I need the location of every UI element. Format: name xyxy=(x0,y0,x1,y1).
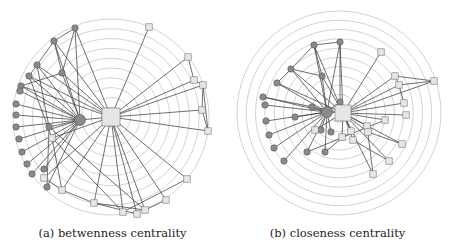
circle-node xyxy=(304,149,310,155)
square-node xyxy=(386,158,392,164)
square-node xyxy=(59,187,65,193)
square-node xyxy=(49,135,55,141)
circle-node xyxy=(13,112,19,118)
circle-node xyxy=(322,149,328,155)
square-node xyxy=(350,137,356,143)
circle-node xyxy=(281,158,287,164)
square-node xyxy=(378,49,384,55)
circle-node xyxy=(41,166,47,172)
square-node xyxy=(399,141,405,147)
caption-closeness: (b) closeness centrality xyxy=(225,226,450,240)
square-node xyxy=(41,175,47,181)
caption-betweenness: (a) betwenness centrality xyxy=(0,226,225,240)
circle-node xyxy=(288,66,294,72)
square-node xyxy=(339,134,345,140)
hub-circle-node xyxy=(322,107,333,118)
hub-circle-node xyxy=(75,115,86,126)
square-node xyxy=(392,73,398,79)
circle-node xyxy=(26,73,32,79)
square-node xyxy=(396,82,402,88)
circle-node xyxy=(271,145,277,151)
circle-node xyxy=(311,42,317,48)
circle-node xyxy=(274,80,280,86)
square-node xyxy=(185,54,191,60)
square-node xyxy=(205,128,211,134)
square-node xyxy=(401,100,407,106)
circle-node xyxy=(262,102,268,108)
circle-node xyxy=(16,136,22,142)
square-node xyxy=(403,112,409,118)
hub-square-node xyxy=(335,105,351,121)
square-node xyxy=(184,176,190,182)
circle-node xyxy=(19,149,25,155)
circle-node xyxy=(318,127,324,133)
square-node xyxy=(364,123,370,129)
square-node xyxy=(163,197,169,203)
square-node xyxy=(200,82,206,88)
circle-node xyxy=(319,73,325,79)
circle-node xyxy=(260,94,266,100)
square-node xyxy=(91,200,97,206)
square-node xyxy=(120,209,126,215)
circle-node xyxy=(13,101,19,107)
square-node xyxy=(134,211,140,217)
radial-graph-closeness xyxy=(225,0,450,225)
circle-node xyxy=(263,118,269,124)
panel-betweenness-centrality: (a) betwenness centrality xyxy=(0,0,225,249)
circle-node xyxy=(72,25,78,31)
circle-node xyxy=(266,132,272,138)
square-node xyxy=(191,77,197,83)
circle-node xyxy=(59,70,65,76)
hub-square-node xyxy=(102,108,120,126)
circle-node xyxy=(34,62,40,68)
circle-node xyxy=(309,104,315,110)
circle-node xyxy=(337,39,343,45)
square-node xyxy=(348,128,354,134)
circle-node xyxy=(24,161,30,167)
circle-node xyxy=(46,124,52,130)
square-node xyxy=(199,107,205,113)
square-node xyxy=(142,207,148,213)
square-node xyxy=(431,78,437,84)
circle-node xyxy=(13,124,19,130)
circle-node xyxy=(328,129,334,135)
circle-node xyxy=(292,114,298,120)
radial-graph-betweenness xyxy=(0,0,225,225)
square-node xyxy=(382,117,388,123)
panel-closeness-centrality: (b) closeness centrality xyxy=(225,0,450,249)
circle-node xyxy=(29,171,35,177)
square-node xyxy=(146,24,152,30)
square-node xyxy=(312,127,318,133)
square-node xyxy=(370,171,376,177)
circle-node xyxy=(17,88,23,94)
square-node xyxy=(365,129,371,135)
circle-node xyxy=(337,99,343,105)
circle-node xyxy=(51,38,57,44)
circle-node xyxy=(44,184,50,190)
